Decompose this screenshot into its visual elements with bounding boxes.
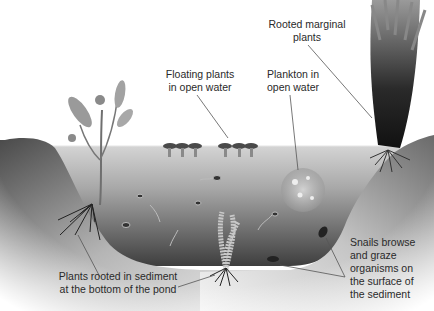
plants-rooted-sediment-label: Plants rooted in sediment at the bottom … bbox=[48, 270, 188, 296]
rooted-marginal-plants-label: Rooted marginal plants bbox=[262, 18, 352, 44]
plankton-label: Plankton in open water bbox=[258, 68, 328, 94]
floating-plants-label: Floating plants in open water bbox=[155, 68, 245, 94]
snails-label: Snails browse and graze organisms on the… bbox=[350, 236, 434, 301]
plankton-sphere-icon bbox=[281, 168, 325, 212]
pond-diagram: Floating plants in open water Plankton i… bbox=[0, 0, 434, 311]
